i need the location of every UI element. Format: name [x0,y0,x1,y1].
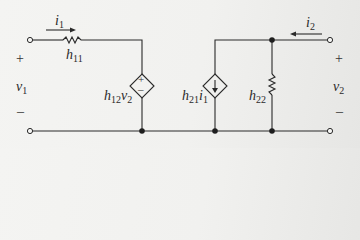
node-top-h22 [269,37,275,43]
i1-arrow-icon [70,28,76,33]
label-v2: v2 [333,80,344,96]
label-h21i1: h21i1 [182,89,208,105]
vsource-minus: – [138,84,144,95]
port1-plus: + [16,52,24,66]
port1-minus: – [17,105,24,119]
i2-arrow-icon [290,32,296,37]
terminal-port2-top [327,37,332,42]
port2-plus: + [335,52,343,66]
label-h22: h22 [249,89,266,105]
terminal-port1-top [27,37,32,42]
node-bottom-isource [212,128,218,134]
label-h12v2: h12v2 [104,89,132,105]
resistor-h22 [269,74,275,95]
node-bottom-h22 [269,128,275,134]
circuit-diagram: i1 h11 + v1 – + – h12v2 h21i1 h22 i2 + v… [0,0,360,148]
current-arrow-icon [212,88,218,93]
label-i2: i2 [306,16,315,32]
port2-minus: – [336,105,343,119]
wire-top-to-vsource [81,40,142,74]
label-h11: h11 [66,48,83,64]
label-i1: i1 [55,14,64,30]
node-bottom-vsource [139,128,145,134]
terminal-port2-bottom [327,128,332,133]
label-v1: v1 [16,80,27,96]
terminal-port1-bottom [27,128,32,133]
resistor-h11 [63,37,81,43]
